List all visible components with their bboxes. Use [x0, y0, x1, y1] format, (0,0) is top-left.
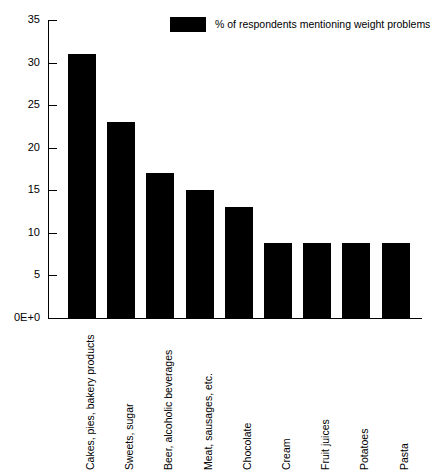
- x-axis-category-labels: Cakes, pies, bakery productsSweets, suga…: [48, 320, 422, 472]
- category-label: Potatoes: [359, 429, 370, 470]
- y-axis-tick-label: 15: [0, 184, 44, 195]
- category-label: Cakes, pies, bakery products: [85, 335, 96, 470]
- bar: [146, 173, 174, 318]
- y-axis-tick-label: 25: [0, 99, 44, 110]
- plot-area: [48, 20, 422, 318]
- category-label: Fruit juices: [320, 419, 331, 470]
- y-axis-tick: [49, 318, 57, 319]
- bar: [342, 243, 370, 318]
- bar: [68, 54, 96, 318]
- bar: [107, 122, 135, 318]
- category-label: Chocolate: [242, 423, 253, 470]
- y-axis-tick-label: 10: [0, 227, 44, 238]
- y-axis-tick-label: 30: [0, 57, 44, 68]
- bar: [225, 207, 253, 318]
- y-axis-tick-label: 20: [0, 142, 44, 153]
- category-label: Meat, sausages, etc.: [203, 373, 214, 470]
- y-axis-tick-label: 35: [0, 14, 44, 25]
- bar-series: [49, 20, 422, 318]
- bar: [186, 190, 214, 318]
- category-label: Beer, alcoholic beverages: [163, 350, 174, 470]
- bar: [303, 243, 331, 318]
- y-axis-tick-label: 5: [0, 269, 44, 280]
- bar: [264, 243, 292, 318]
- y-axis-tick-label: 0E+0: [0, 312, 44, 323]
- y-axis-tick-labels: 0E+05101520253035: [0, 20, 44, 319]
- category-label: Cream: [281, 438, 292, 470]
- category-label: Pasta: [399, 443, 410, 470]
- x-axis-line: [48, 318, 422, 319]
- category-label: Sweets, sugar: [124, 403, 135, 470]
- bar: [382, 243, 410, 318]
